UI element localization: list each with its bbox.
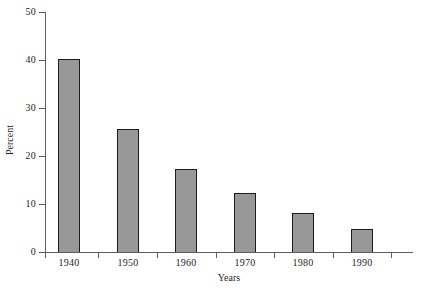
x-axis-tick-3 [216, 252, 217, 258]
x-axis-tick-2 [157, 252, 158, 258]
y-axis-tick-40 [39, 60, 45, 61]
y-axis-line [45, 12, 46, 253]
x-axis-tick-label-1970: 1970 [221, 257, 269, 268]
x-axis-tick-1 [98, 252, 99, 258]
y-axis-title: Percent [4, 110, 15, 170]
y-axis-tick-50 [39, 12, 45, 13]
x-axis-tick-label-1990: 1990 [338, 257, 386, 268]
x-axis-tick-label-1940: 1940 [45, 257, 93, 268]
bar-1970 [234, 193, 256, 252]
bar-1940 [58, 59, 80, 252]
x-axis-tick-5 [333, 252, 334, 258]
bar-chart: 0 10 20 30 40 50 1940 1950 1960 1970 198… [0, 0, 425, 289]
bar-1960 [175, 169, 197, 252]
x-axis-tick-label-1950: 1950 [104, 257, 152, 268]
bar-1950 [117, 129, 139, 252]
x-axis-title: Years [45, 272, 413, 283]
y-axis-tick-label-40: 40 [6, 55, 36, 65]
y-axis-tick-20 [39, 156, 45, 157]
bar-1990 [351, 229, 373, 252]
x-axis-tick-label-1960: 1960 [162, 257, 210, 268]
y-axis-tick-label-50: 50 [6, 7, 36, 17]
x-axis-tick-4 [274, 252, 275, 258]
bar-1980 [292, 213, 314, 252]
y-axis-tick-30 [39, 108, 45, 109]
y-axis-tick-10 [39, 204, 45, 205]
x-axis-tick-label-1980: 1980 [279, 257, 327, 268]
x-axis-line [45, 252, 413, 253]
y-axis-tick-label-0: 0 [6, 247, 36, 257]
y-axis-tick-label-10: 10 [6, 199, 36, 209]
x-axis-tick-6 [391, 252, 392, 258]
